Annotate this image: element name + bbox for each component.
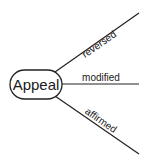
tree-diagram: Appeal reversed modified affirmed	[0, 0, 148, 163]
branch-line-affirmed	[55, 96, 139, 154]
branch-label-affirmed: affirmed	[83, 105, 119, 135]
root-label: Appeal	[13, 76, 60, 93]
branch-label-reversed: reversed	[80, 28, 118, 59]
branch-label-modified: modified	[82, 72, 120, 83]
